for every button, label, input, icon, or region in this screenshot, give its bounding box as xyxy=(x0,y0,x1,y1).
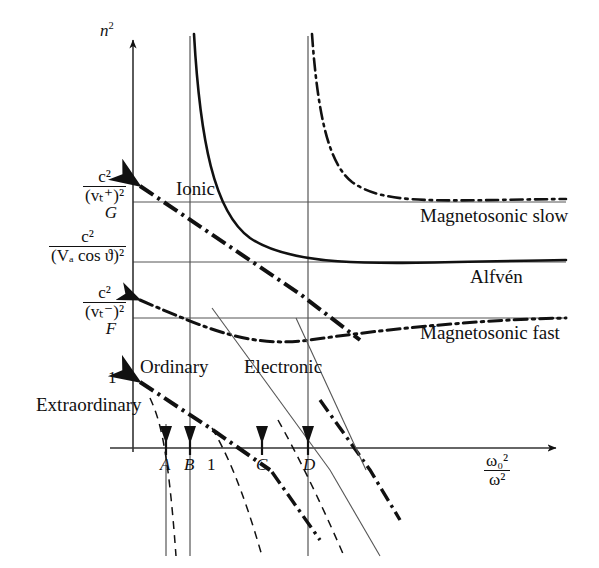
curve-ionic xyxy=(140,186,360,340)
x-tick-D: D xyxy=(303,455,315,475)
y-tick-alfven-den: (Vₐ cos ϑ)² xyxy=(49,246,126,265)
curve-label-electronic: Electronic xyxy=(244,356,322,378)
curve-label-alfven: Alfvén xyxy=(470,266,523,288)
y-axis-title-exp: 2 xyxy=(109,20,114,31)
ordinary-branch-A xyxy=(150,398,176,556)
curve-alfven xyxy=(194,34,566,263)
x-axis-title: ω₀² ω² xyxy=(484,452,510,490)
y-tick-unity: 1 xyxy=(108,368,117,388)
axes xyxy=(110,40,556,452)
y-axis-title: n2 xyxy=(100,20,114,41)
y-tick-vT-plus-num: c² xyxy=(83,168,126,186)
y-axis-title-base: n xyxy=(100,21,109,40)
curve-label-ionic: Ionic xyxy=(176,178,215,200)
y-tick-alfven-level: c² (Vₐ cos ϑ)² xyxy=(18,228,126,266)
extraordinary-lower xyxy=(272,472,320,540)
x-tick-A: A xyxy=(160,455,170,475)
curves-lower-continuations xyxy=(272,400,400,540)
curve-label-extraordinary: Extraordinary xyxy=(36,394,142,416)
y-tick-letter-G: G xyxy=(96,203,126,223)
x-tick-C: C xyxy=(256,455,267,475)
axis-arrow-markers xyxy=(160,426,314,444)
x-tick-B: B xyxy=(184,455,194,475)
x-axis-title-den: ω² xyxy=(484,470,510,489)
curve-magnetosonic-slow xyxy=(312,34,566,200)
curve-label-magnetosonic-slow: Magnetosonic slow xyxy=(420,205,568,227)
ionic-lower xyxy=(320,400,400,520)
y-tick-alfven-num: c² xyxy=(49,228,126,246)
vertical-asymptotes xyxy=(166,36,308,556)
curve-label-ordinary: Ordinary xyxy=(140,356,209,378)
line-electronic xyxy=(212,308,330,470)
x-axis-title-num: ω₀² xyxy=(484,452,510,470)
y-tick-vT-minus: c² (vₜ⁻)² xyxy=(60,284,126,322)
y-tick-vT-plus: c² (vₜ⁺)² xyxy=(60,168,126,206)
ordinary-branch-C xyxy=(278,420,344,556)
x-tick-1: 1 xyxy=(207,455,216,475)
curve-label-magnetosonic-fast: Magnetosonic fast xyxy=(420,322,560,344)
y-tick-vT-minus-num: c² xyxy=(83,284,126,302)
y-tick-letter-F: F xyxy=(96,319,126,339)
